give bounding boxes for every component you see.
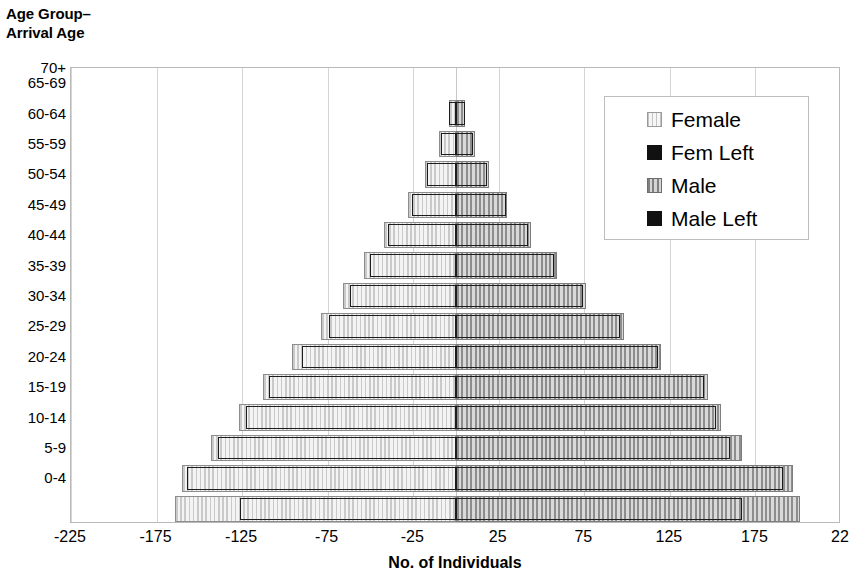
y-tick-label: 35-39	[28, 258, 66, 273]
pyramid-row	[71, 463, 839, 493]
y-tick-label: 0-4	[44, 470, 66, 485]
bar-fem-left	[412, 194, 456, 216]
y-tick-label: 25-29	[28, 318, 66, 333]
y-tick-label: 50-54	[28, 166, 66, 181]
bar-fem-left	[218, 437, 456, 459]
bar-fem-left	[350, 285, 456, 307]
y-tick-label: 20-24	[28, 349, 66, 364]
pyramid-row	[71, 68, 839, 98]
y-tick-label: 40-44	[28, 227, 66, 242]
x-tick-label: 175	[741, 527, 768, 547]
bar-male-left	[456, 437, 730, 459]
y-tick-label: 15-19	[28, 379, 66, 394]
bar-male-left	[456, 102, 465, 124]
bar-male-left	[456, 467, 783, 489]
bar-fem-left	[187, 467, 456, 489]
legend-item-label: Male	[671, 174, 717, 197]
bar-male-left	[456, 376, 704, 398]
bar-male-left	[456, 498, 742, 520]
pyramid-row	[71, 250, 839, 280]
y-tick-label: 5-9	[44, 440, 66, 455]
y-tick-label: 10-14	[28, 410, 66, 425]
bar-male-left	[456, 254, 554, 276]
legend-item[interactable]: Male	[605, 169, 808, 202]
bar-male-left	[456, 194, 506, 216]
y-axis-tick-labels: 70+65-6960-6455-5950-5445-4940-4435-3930…	[0, 67, 66, 523]
pyramid-row	[71, 311, 839, 341]
chart-legend: FemaleFem LeftMaleMale Left	[604, 96, 809, 240]
population-pyramid-chart: Age Group– Arrival Age 70+65-6960-6455-5…	[0, 0, 859, 586]
pyramid-row	[71, 281, 839, 311]
y-tick-label: 45-49	[28, 197, 66, 212]
bar-fem-left	[370, 254, 456, 276]
bar-fem-left	[388, 224, 456, 246]
y-axis-title: Age Group– Arrival Age	[6, 4, 91, 42]
bar-male-left	[456, 224, 528, 246]
bar-fem-left	[427, 163, 456, 185]
legend-item[interactable]: Male Left	[605, 202, 808, 235]
bar-male-left	[456, 406, 716, 428]
x-tick-label: -75	[315, 527, 338, 547]
x-tick-label: 75	[574, 527, 592, 547]
legend-item-label: Female	[671, 108, 741, 131]
x-tick-label: 22	[831, 527, 849, 547]
bar-fem-left	[246, 406, 456, 428]
pyramid-row	[71, 402, 839, 432]
bar-fem-left	[441, 133, 456, 155]
bar-male-left	[456, 346, 658, 368]
y-tick-label: 30-34	[28, 288, 66, 303]
pyramid-row	[71, 494, 839, 522]
pyramid-row	[71, 433, 839, 463]
x-tick-label: -175	[140, 527, 172, 547]
bar-fem-left	[269, 376, 456, 398]
male-left-swatch	[647, 211, 662, 226]
x-tick-label: 125	[656, 527, 683, 547]
y-tick-label: 60-64	[28, 106, 66, 121]
bar-male-left	[456, 163, 487, 185]
bar-fem-left	[240, 498, 456, 520]
legend-item-label: Male Left	[671, 207, 757, 230]
pyramid-row	[71, 342, 839, 372]
y-tick-label: 70+	[41, 60, 66, 75]
bar-male-left	[456, 133, 473, 155]
x-tick-label: 25	[489, 527, 507, 547]
x-axis-tick-labels: -225-175-125-75-25257512517522	[0, 527, 859, 551]
bar-male-left	[456, 315, 620, 337]
y-tick-label: 65-69	[28, 75, 66, 90]
legend-item[interactable]: Female	[605, 103, 808, 136]
bar-male-left	[456, 285, 583, 307]
y-tick-label: 55-59	[28, 136, 66, 151]
bar-fem-left	[329, 315, 456, 337]
x-tick-label: -125	[225, 527, 257, 547]
female-swatch	[647, 112, 662, 127]
bar-fem-left	[449, 102, 456, 124]
fem-left-swatch	[647, 145, 662, 160]
x-tick-label: -225	[54, 527, 86, 547]
bar-fem-left	[302, 346, 456, 368]
x-axis-title: No. of Individuals	[70, 553, 840, 573]
legend-item[interactable]: Fem Left	[605, 136, 808, 169]
legend-item-label: Fem Left	[671, 141, 754, 164]
pyramid-row	[71, 372, 839, 402]
male-swatch	[647, 178, 662, 193]
x-tick-label: -25	[401, 527, 424, 547]
